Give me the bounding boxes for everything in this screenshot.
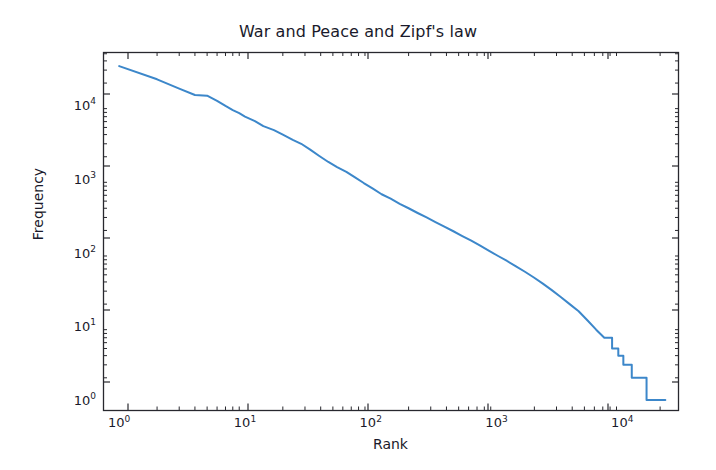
y-tick-label: 100 — [50, 392, 96, 407]
y-axis-label: Frequency — [30, 144, 46, 264]
chart-figure: War and Peace and Zipf's law — [0, 0, 716, 470]
plot-area — [0, 0, 716, 470]
y-tick-label: 103 — [50, 171, 96, 186]
x-tick-label: 103 — [485, 415, 507, 430]
x-axis-label: Rank — [103, 436, 678, 452]
x-tick-label: 104 — [611, 415, 633, 430]
y-tick-label: 104 — [50, 98, 96, 113]
x-tick-label: 100 — [108, 415, 130, 430]
axes-frame — [104, 53, 679, 411]
y-tick-label: 101 — [50, 319, 96, 334]
x-tick-label: 102 — [360, 415, 382, 430]
x-tick-label: 101 — [234, 415, 256, 430]
y-tick-label: 102 — [50, 245, 96, 260]
